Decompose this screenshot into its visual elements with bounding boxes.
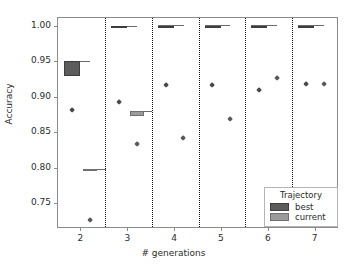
x-tick-label: 5 [211,234,231,243]
x-tick-label: 7 [305,234,325,243]
box-plot-box [64,61,80,76]
x-tick-label: 4 [164,234,184,243]
box-plot-box [298,26,314,29]
panel-separator [245,18,246,227]
legend-title: Trajectory [270,191,332,200]
outlier-marker [134,141,140,147]
box-plot-box [83,169,97,172]
legend-label: best [295,203,313,212]
box-plot-box [205,26,221,29]
y-tick-label: 0.80 [17,163,51,172]
panel-separator [152,18,153,227]
outlier-marker [116,100,122,106]
outlier-marker [274,75,280,81]
legend-entries: bestcurrent [270,203,332,222]
legend-swatch [270,203,289,211]
x-tick-mark [268,228,269,231]
x-tick-mark [221,228,222,231]
outlier-marker [256,87,262,93]
y-tick-label: 0.75 [17,198,51,207]
outlier-marker [181,135,187,141]
panel-separator [105,18,106,227]
legend: Trajectory bestcurrent [264,187,338,227]
y-tick-label: 0.90 [17,92,51,101]
y-tick-label: 0.85 [17,127,51,136]
outlier-marker [87,217,93,223]
panel-separator [199,18,200,227]
x-tick-label: 6 [258,234,278,243]
x-tick-label: 2 [70,234,90,243]
x-tick-label: 3 [117,234,137,243]
outlier-marker [69,107,75,113]
legend-label: current [295,213,326,222]
outlier-marker [227,117,233,123]
legend-item[interactable]: current [270,213,332,222]
chart-figure: Accuracy # generations 1.000.950.900.850… [0,0,347,267]
box-plot-box [158,26,174,29]
x-axis-label: # generations [0,248,347,258]
outlier-marker [163,82,169,88]
box-plot-box [130,111,144,116]
outlier-marker [303,81,309,87]
x-tick-mark [315,228,316,231]
y-axis-label: Accuracy [4,74,14,134]
y-tick-label: 0.95 [17,56,51,65]
x-tick-mark [80,228,81,231]
legend-item[interactable]: best [270,203,332,212]
outlier-marker [321,81,327,87]
box-plot-box [111,26,127,29]
box-plot-box [251,26,267,29]
legend-swatch [270,213,289,221]
outlier-marker [210,82,216,88]
y-tick-label: 1.00 [17,21,51,30]
x-tick-mark [127,228,128,231]
x-tick-mark [174,228,175,231]
